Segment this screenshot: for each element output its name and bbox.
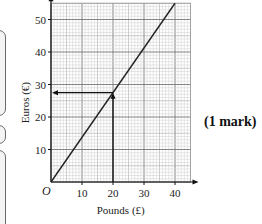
y-tick-label: 40	[35, 46, 47, 58]
x-tick-label: 10	[77, 187, 89, 199]
y-tick-label: 50	[35, 14, 47, 26]
x-axis-label: Pounds (£)	[97, 204, 145, 217]
y-axis-label: Euros (€)	[19, 82, 32, 124]
x-axis-arrow-icon	[193, 180, 199, 185]
origin-label: O	[42, 184, 51, 198]
mark-label: (1 mark)	[204, 114, 257, 130]
y-tick-label: 20	[35, 111, 47, 123]
x-tick-label: 30	[139, 187, 151, 199]
x-tick-label: 40	[170, 187, 182, 199]
y-tick-label: 30	[35, 79, 47, 91]
x-tick-label: 20	[108, 187, 120, 199]
y-axis-arrow-icon	[49, 0, 54, 1]
y-tick-label: 10	[35, 144, 47, 156]
conversion-graph: 102030401020304050OPounds (£)Euros (€)	[0, 0, 262, 224]
